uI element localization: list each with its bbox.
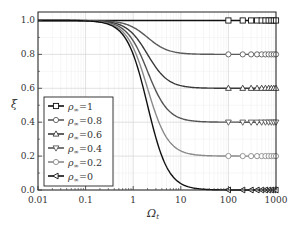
data-point-marker xyxy=(249,52,254,57)
x-tick-label: 100 xyxy=(220,195,237,205)
data-point-marker xyxy=(226,18,231,23)
legend-marker-icon xyxy=(53,159,58,164)
legend-marker-icon xyxy=(53,103,58,108)
y-tick-label: 0.8 xyxy=(21,49,36,59)
y-tick-label: 1.0 xyxy=(21,15,36,25)
svg-text:Ωt: Ωt xyxy=(146,207,159,221)
y-tick-label: 0.2 xyxy=(21,151,35,161)
legend: ρ∞=1ρ∞=0.8ρ∞=0.6ρ∞=0.4ρ∞=0.2ρ∞=0 xyxy=(44,97,113,186)
data-point-marker xyxy=(226,153,231,158)
x-tick-label: 10 xyxy=(175,195,187,205)
y-tick-label: 0.4 xyxy=(21,117,36,127)
legend-marker-icon xyxy=(53,117,58,122)
y-tick-label: 0.0 xyxy=(21,185,36,195)
x-axis-label: Ωt xyxy=(146,207,159,221)
x-tick-label: 0.1 xyxy=(78,195,92,205)
data-point-marker xyxy=(240,153,245,158)
data-point-marker xyxy=(249,18,254,23)
data-point-marker xyxy=(249,153,254,158)
x-tick-label: 0.01 xyxy=(28,195,48,205)
line-chart: 0.010.111010010000.00.20.40.60.81.0 ξ Ωt… xyxy=(0,0,295,231)
y-axis-label: ξ xyxy=(11,98,18,111)
x-tick-label: 1000 xyxy=(265,195,288,205)
x-tick-label: 1 xyxy=(130,195,136,205)
data-point-marker xyxy=(226,52,231,57)
y-tick-label: 0.6 xyxy=(21,83,36,93)
data-point-marker xyxy=(240,52,245,57)
data-point-marker xyxy=(240,18,245,23)
